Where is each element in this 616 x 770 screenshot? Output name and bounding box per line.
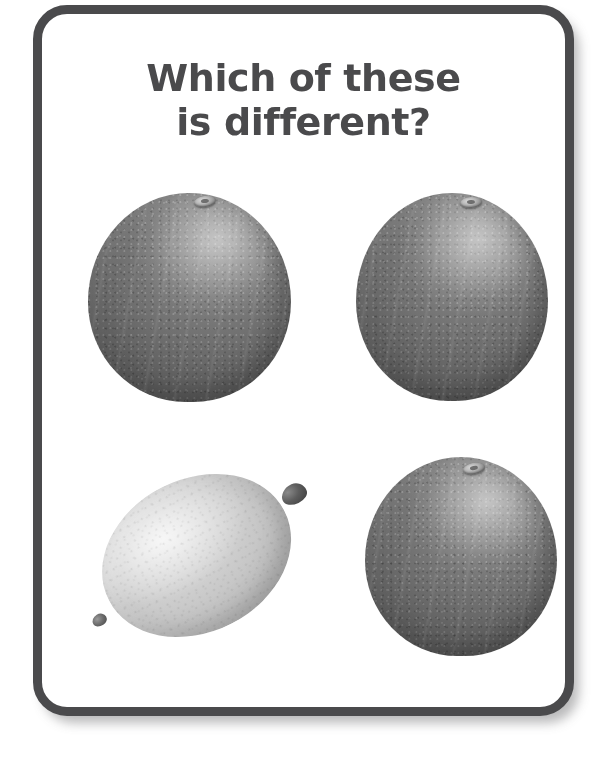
lemon-body xyxy=(75,442,320,667)
lemon-peel-texture xyxy=(75,442,320,667)
orange-peel-segments xyxy=(356,193,548,401)
orange-peel-segments xyxy=(88,193,291,402)
fruit-option-top-right[interactable] xyxy=(356,193,548,401)
fruit-option-bottom-right[interactable] xyxy=(365,457,557,656)
fruit-option-bottom-left[interactable] xyxy=(85,462,309,648)
orange-body xyxy=(365,457,557,656)
lemon-stem-nub-icon xyxy=(278,480,310,509)
orange-peel-segments xyxy=(365,457,557,656)
orange-body xyxy=(356,193,548,401)
lemon-blossom-tip-icon xyxy=(90,611,109,629)
orange-fruit-icon xyxy=(365,457,557,656)
fruit-option-top-left[interactable] xyxy=(88,193,291,402)
orange-fruit-icon xyxy=(356,193,548,401)
orange-body xyxy=(88,193,291,402)
orange-fruit-icon xyxy=(88,193,291,402)
fruit-grid xyxy=(0,0,616,770)
lemon-fruit-icon xyxy=(85,462,309,648)
